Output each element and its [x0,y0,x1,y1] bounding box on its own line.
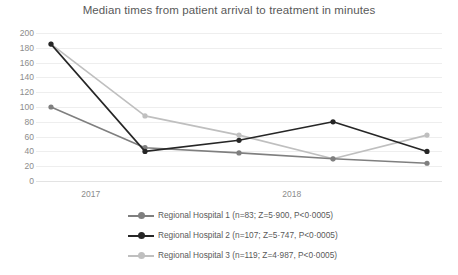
y-axis-tick-label: 120 [0,88,34,97]
y-axis-tick-label: 80 [0,118,34,127]
legend-item-label: Regional Hospital 2 (n=107; Z=5·747, P<0… [158,231,338,239]
y-axis-tick-label: 200 [0,29,34,38]
legend-item[interactable]: Regional Hospital 3 (n=119; Z=4·987, P<0… [128,245,428,265]
gridline [36,181,442,182]
series-layer [36,33,442,181]
data-point-marker [424,161,429,166]
data-point-marker [424,133,429,138]
data-point-marker [424,149,429,154]
chart-title: Median times from patient arrival to tre… [0,4,458,16]
data-point-marker [48,42,53,47]
y-axis-tick-label: 160 [0,59,34,68]
legend-item-label: Regional Hospital 3 (n=119; Z=4·987, P<0… [158,251,337,259]
y-axis-tick-label: 40 [0,147,34,156]
y-axis-tick-label: 140 [0,73,34,82]
chart-legend: Regional Hospital 1 (n=83; Z=5·900, P<0·… [128,205,428,265]
legend-item[interactable]: Regional Hospital 2 (n=107; Z=5·747, P<0… [128,225,428,245]
legend-item-label: Regional Hospital 1 (n=83; Z=5·900, P<0·… [158,211,333,219]
y-axis-tick-label: 100 [0,103,34,112]
y-axis-tick-label: 20 [0,162,34,171]
legend-marker-icon [128,250,154,260]
legend-marker-icon [128,210,154,220]
chart-container: Median times from patient arrival to tre… [0,0,458,275]
data-point-marker [330,156,335,161]
y-axis-tick-label: 180 [0,44,34,53]
x-axis-tick-label: 2017 [81,189,100,199]
y-axis-tick-labels: 200180160140120100806040200 [0,33,34,181]
y-axis-tick-label: 0 [0,177,34,186]
data-point-marker [236,138,241,143]
legend-item[interactable]: Regional Hospital 1 (n=83; Z=5·900, P<0·… [128,205,428,225]
data-point-marker [48,104,53,109]
x-axis-tick-label: 2018 [282,189,301,199]
y-axis-tick-label: 60 [0,133,34,142]
data-point-marker [142,113,147,118]
legend-marker-icon [128,230,154,240]
data-point-marker [142,149,147,154]
data-point-marker [236,150,241,155]
data-point-marker [330,119,335,124]
data-point-marker [236,133,241,138]
